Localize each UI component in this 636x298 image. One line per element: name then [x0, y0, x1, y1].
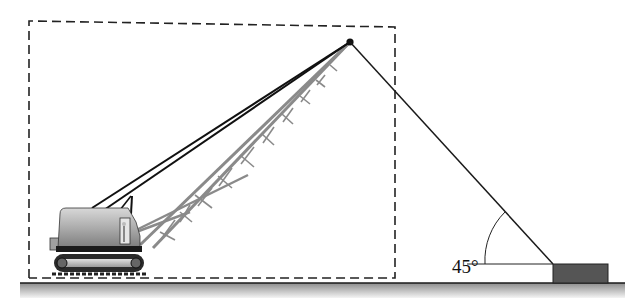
angle-arc	[485, 212, 505, 264]
cable	[350, 42, 553, 264]
crawler-tracks	[52, 254, 146, 274]
crane-body	[50, 208, 142, 252]
crane-diagram	[0, 0, 636, 298]
boom	[120, 42, 350, 248]
angle-label: 45°	[452, 257, 479, 276]
ground-block	[553, 264, 608, 283]
ground	[20, 283, 625, 298]
